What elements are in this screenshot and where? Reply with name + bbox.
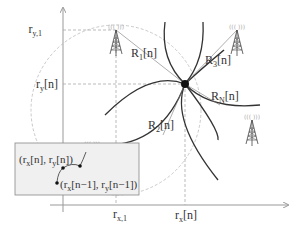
- localization-diagram: ((( ))) ry,1 ry[n]: [0, 0, 299, 232]
- estimated-position-node: [181, 80, 189, 88]
- diagram-svg: ((( ))) ry,1 ry[n]: [0, 0, 299, 232]
- tower-1-icon: [108, 23, 124, 56]
- arc-r1: [105, 81, 185, 115]
- label-r3: R3[n]: [205, 53, 231, 69]
- tower-3-icon: [229, 23, 245, 56]
- label-rx1: rx,1: [113, 207, 127, 223]
- label-r2: R2[n]: [148, 118, 174, 134]
- label-ryn: ry[n]: [36, 77, 58, 93]
- label-r1: R1[n]: [131, 46, 157, 62]
- label-rn: RN[n]: [211, 89, 239, 105]
- tower-n-icon: [244, 113, 260, 146]
- label-ry1: ry,1: [29, 22, 42, 38]
- label-rxn: rx[n]: [175, 208, 197, 224]
